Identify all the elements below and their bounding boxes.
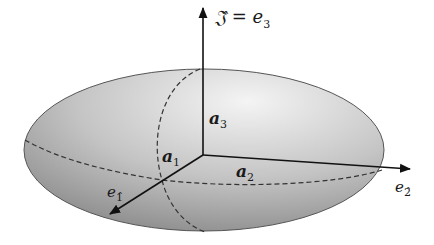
label-a3: a3 [209, 110, 227, 130]
label-e2: e2̂ [395, 180, 411, 198]
ellipsoid-body [24, 69, 384, 231]
label-a2: a2 [236, 163, 254, 183]
label-e1: e1̂ [107, 185, 123, 203]
label-e3-axis: 𝔍̂ = e3 [215, 8, 270, 30]
label-a1: a1 [162, 148, 180, 168]
